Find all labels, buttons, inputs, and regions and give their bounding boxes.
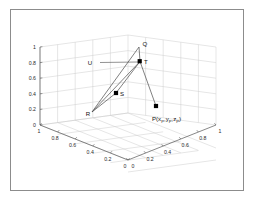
x-tick-label-1: 1 [219, 128, 222, 134]
z-axis-ticks: 1 0.8 0.6 0.4 0.2 0 [29, 44, 43, 128]
svg-text:P(xP,yP,zP): P(xP,yP,zP) [152, 115, 181, 124]
y-axis-ticks: 1 0.8 0.6 0.4 0.2 0 [38, 123, 130, 169]
y-axis-line [40, 125, 128, 160]
point-label-Q: Q [143, 40, 148, 47]
x-tick-label-0.8: 0.8 [199, 135, 206, 141]
point-label-R: R [86, 110, 91, 117]
annotation-U-leader-line [100, 62, 138, 63]
y-tick-label-1: 1 [38, 128, 41, 134]
annotation-label-U: U [88, 59, 92, 66]
y-tick-label-0.6: 0.6 [69, 142, 76, 148]
point-label-T: T [144, 58, 148, 65]
figure-root: 1 0.8 0.6 0.4 0.2 0 1 0.8 0.6 0.4 0.2 0 [0, 0, 255, 201]
y-tick-label-0.4: 0.4 [87, 149, 94, 155]
x-tick-label-0.6: 0.6 [182, 142, 189, 148]
y-tick-label-0: 0 [124, 163, 127, 169]
y-tick-label-0.8: 0.8 [51, 135, 58, 141]
grid-back-right-wall [128, 35, 216, 125]
point-label-P: P(xP,yP,zP) [152, 115, 181, 124]
z-tick-label-0: 0 [33, 122, 36, 128]
grid-floor [40, 113, 216, 172]
edge-R-Q [92, 47, 139, 112]
z-tick-label-0.6: 0.6 [29, 75, 36, 81]
point-label-P-main: P(x [152, 115, 161, 122]
z-tick-label-0.2: 0.2 [29, 106, 36, 112]
x-tick-label-0.4: 0.4 [164, 149, 171, 155]
plot-3d-axes: 1 0.8 0.6 0.4 0.2 0 1 0.8 0.6 0.4 0.2 0 [0, 0, 255, 201]
z-tick-label-0.8: 0.8 [29, 60, 36, 66]
marker-S [114, 91, 118, 95]
z-tick-label-1: 1 [33, 44, 36, 50]
point-label-P-close: ) [179, 115, 181, 122]
point-label-S: S [120, 90, 124, 97]
data-edges [92, 47, 156, 112]
edge-R-T [92, 62, 140, 113]
y-tick-label-0.2: 0.2 [104, 156, 111, 162]
marker-P [154, 104, 158, 108]
z-tick-label-0.4: 0.4 [29, 91, 36, 97]
marker-T [138, 59, 142, 63]
x-tick-label-0: 0 [132, 163, 135, 169]
x-tick-label-0.2: 0.2 [146, 156, 153, 162]
